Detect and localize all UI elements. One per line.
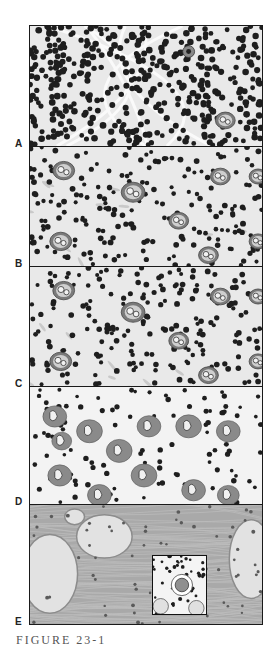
panel-e-label: E: [15, 617, 22, 627]
panel-a-label: A: [15, 139, 22, 149]
panel-d-micrograph: [29, 386, 263, 505]
panel-b-label: B: [15, 259, 22, 269]
figure-caption: FIGURE 23-1: [16, 634, 106, 646]
panel-c-micrograph: [29, 266, 263, 387]
panel-c-label: C: [15, 379, 22, 389]
panel-d-label: D: [15, 497, 22, 507]
panel-e-inset: [152, 555, 207, 615]
panel-e-micrograph: [29, 504, 263, 625]
panel-b-micrograph: [29, 146, 263, 267]
panel-a-micrograph: [29, 25, 263, 147]
